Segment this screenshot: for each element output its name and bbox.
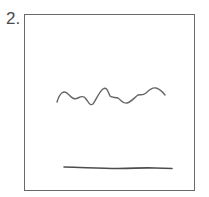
figure-drawing	[0, 0, 209, 197]
straight-line	[64, 167, 172, 169]
wavy-line	[57, 88, 165, 105]
